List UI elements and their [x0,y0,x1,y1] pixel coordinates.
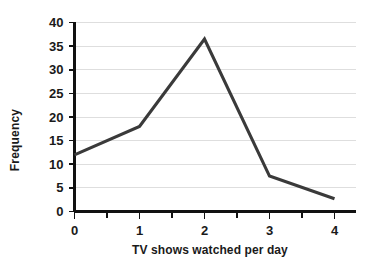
y-tick-label: 30 [49,62,63,77]
y-tick-label: 10 [49,157,63,172]
x-tick-label: 0 [71,223,78,238]
y-tick-label: 35 [49,39,63,54]
x-tick-label: 2 [201,223,208,238]
frequency-polygon-line [75,39,335,199]
y-axis-ticks-group: 0510152025303540 [49,15,74,219]
y-tick-label: 25 [49,86,63,101]
data-series-group [75,39,335,199]
y-tick-label: 40 [49,15,63,30]
y-tick-label: 20 [49,110,63,125]
x-tick-label: 3 [266,223,273,238]
y-tick-label: 5 [56,180,63,195]
y-tick-label: 0 [56,204,63,219]
gridlines-group [75,23,357,188]
x-tick-label: 1 [136,223,143,238]
chart-figure: Frequency 0510152025303540 01234 TV show… [0,0,376,268]
chart-plot-area: 0510152025303540 01234 [0,0,376,268]
x-axis-ticks-group: 01234 [71,212,339,238]
y-tick-label: 15 [49,133,63,148]
x-axis-title: TV shows watched per day [60,243,360,257]
x-tick-label: 4 [331,223,339,238]
